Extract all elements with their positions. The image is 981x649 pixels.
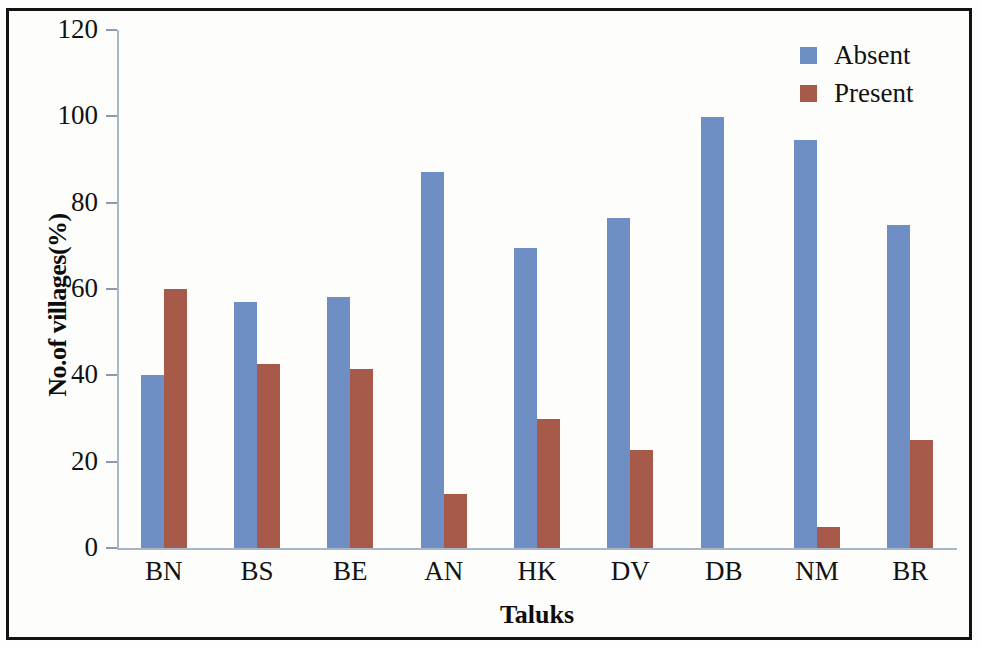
bar-hk-absent xyxy=(514,248,537,548)
y-axis-tick xyxy=(106,374,117,376)
x-axis-label-nm: NM xyxy=(772,556,862,587)
y-axis-tick xyxy=(106,288,117,290)
bar-an-present xyxy=(444,494,467,548)
legend-label-present: Present xyxy=(834,80,913,107)
bar-nm-present xyxy=(817,527,840,548)
x-axis-label-dv: DV xyxy=(585,556,675,587)
legend-item-present[interactable]: Present xyxy=(800,74,970,112)
y-axis-tick xyxy=(106,202,117,204)
legend-swatch-icon-present xyxy=(800,85,817,102)
x-axis-line xyxy=(117,548,957,550)
x-axis-label-hk: HK xyxy=(492,556,582,587)
legend-item-absent[interactable]: Absent xyxy=(800,36,970,74)
bar-bs-absent xyxy=(234,302,257,548)
chart-legend: Absent Present xyxy=(800,36,970,112)
y-axis-tick xyxy=(106,547,117,549)
x-axis-label-db: DB xyxy=(679,556,769,587)
y-axis-tick xyxy=(106,115,117,117)
bar-dv-present xyxy=(630,450,653,548)
bar-bs-present xyxy=(257,364,280,548)
bar-nm-absent xyxy=(794,140,817,548)
bar-dv-absent xyxy=(607,218,630,548)
bar-db-absent xyxy=(701,117,724,548)
x-axis-label-bs: BS xyxy=(212,556,302,587)
x-axis-label-be: BE xyxy=(305,556,395,587)
bar-hk-present xyxy=(537,419,560,549)
x-axis-title: Taluks xyxy=(117,600,957,630)
y-axis-tick-label: 100 xyxy=(0,102,98,129)
bar-br-present xyxy=(910,440,933,548)
x-axis-label-bn: BN xyxy=(119,556,209,587)
legend-swatch-icon-absent xyxy=(800,47,817,64)
chart-figure: 020406080100120 No.of villages(%) Taluks… xyxy=(0,0,981,649)
legend-label-absent: Absent xyxy=(834,42,911,69)
y-axis-tick-label: 0 xyxy=(0,534,98,561)
y-axis-tick xyxy=(106,461,117,463)
bar-bn-absent xyxy=(141,375,164,548)
y-axis-tick-label: 120 xyxy=(0,16,98,43)
bar-bn-present xyxy=(164,289,187,548)
bar-be-absent xyxy=(327,297,350,548)
y-axis-line xyxy=(117,30,119,549)
y-axis-tick xyxy=(106,29,117,31)
bar-br-absent xyxy=(887,225,910,548)
bar-be-present xyxy=(350,369,373,548)
y-axis-title: No.of villages(%) xyxy=(43,155,73,455)
x-axis-label-br: BR xyxy=(865,556,955,587)
x-axis-label-an: AN xyxy=(399,556,489,587)
bar-an-absent xyxy=(421,172,444,548)
plot-area: 020406080100120 No.of villages(%) Taluks… xyxy=(0,0,981,649)
